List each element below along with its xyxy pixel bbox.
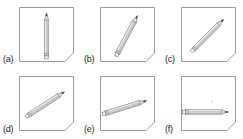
panel-frame-b (100, 7, 155, 62)
stray-speck (212, 100, 213, 103)
panel-label-f: (f) (165, 125, 173, 134)
figure-panel-a: (a) (0, 0, 81, 69)
panel-label-c: (c) (165, 55, 175, 64)
figure-panel-d: (d) (0, 69, 81, 139)
panel-border-e (101, 77, 155, 131)
figure-panel-e: (e) (81, 69, 162, 139)
panel-label-e: (e) (84, 125, 94, 134)
pencil-illustration-a (44, 13, 48, 59)
figure-panel-c: (c) (162, 0, 243, 69)
panel-border-f (182, 77, 236, 131)
panel-frame-e (100, 76, 155, 131)
pencil-illustration-f (183, 110, 229, 114)
panel-frame-a (19, 7, 74, 62)
panel-label-a: (a) (3, 55, 13, 64)
panel-frame-c (181, 7, 236, 62)
figure-panel-f: (f) (162, 69, 243, 139)
figure-panel-b: (b) (81, 0, 162, 69)
panel-frame-d (19, 76, 74, 131)
panel-label-d: (d) (3, 125, 13, 134)
panel-label-b: (b) (84, 55, 94, 64)
figure-panel-grid: (a) (b) (0, 0, 243, 139)
panel-frame-f (181, 76, 236, 131)
